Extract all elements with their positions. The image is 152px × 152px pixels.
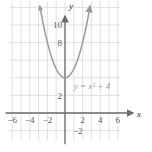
y-axis-title: y [68, 1, 73, 11]
equation-label: y = x² + 4 [73, 81, 111, 91]
x-tick-label: −6 [7, 115, 17, 125]
x-tick-label: 2 [80, 115, 85, 125]
curve-layer [37, 5, 90, 78]
x-tick-label: 4 [98, 115, 103, 125]
x-tick-label: −2 [43, 115, 53, 125]
x-tick-label: 6 [116, 115, 121, 125]
axes [6, 16, 133, 144]
y-tick-label: 2 [58, 91, 63, 101]
x-tick-label: −4 [25, 115, 35, 125]
parabola-graph: −6−4−2246−22810 xy y = x² + 4 [0, 0, 152, 152]
equation-annotation: y = x² + 4 [73, 81, 111, 91]
y-tick-label: 10 [53, 20, 63, 30]
axis-titles: xy [68, 1, 141, 119]
x-axis-title: x [136, 109, 141, 119]
y-tick-label: 8 [58, 38, 63, 48]
y-tick-label: −2 [73, 126, 83, 136]
figure-container: −6−4−2246−22810 xy y = x² + 4 [0, 0, 152, 152]
